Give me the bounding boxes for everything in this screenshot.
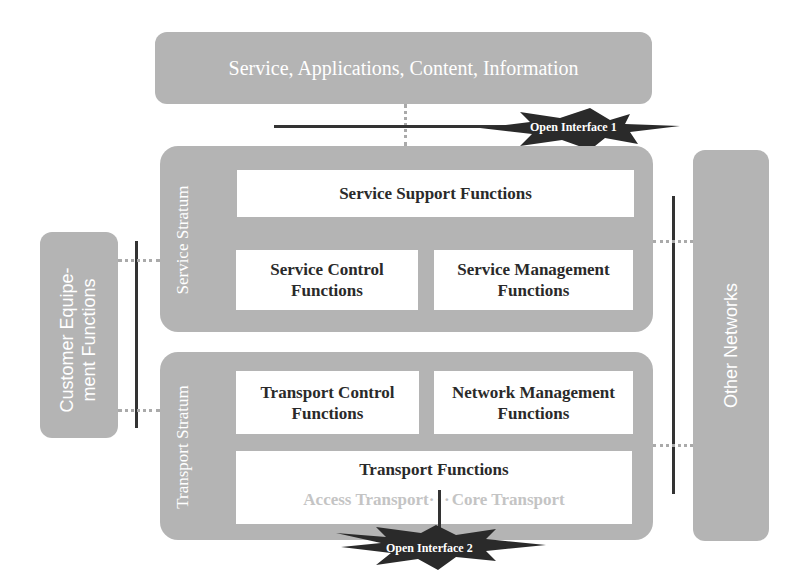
other-transport-connector [653,444,693,447]
transport-sub-row: Access Transport···Core Transport [236,489,632,510]
service-control-line1: Service Control [270,259,383,280]
customer-service-connector [118,259,160,262]
customer-equipment-label: Customer Equipe- ment Functions [56,240,100,440]
interface-1-line [274,125,514,128]
service-management-functions: Service Management Functions [434,250,633,310]
core-transport: Core Transport [452,490,565,509]
other-networks-label: Other Networks [721,266,742,426]
service-applications-box: Service, Applications, Content, Informat… [155,32,652,104]
service-support-functions: Service Support Functions [237,170,634,217]
open-interface-1-label: Open Interface 1 [530,120,617,135]
service-stratum-label: Service Stratum [173,180,193,300]
customer-line1: Customer Equipe- [56,240,78,440]
transport-control-line2: Functions [292,403,364,424]
other-service-connector [653,240,693,243]
transport-stratum-label: Transport Stratum [173,382,193,512]
service-control-functions: Service Control Functions [236,250,418,310]
customer-line [135,241,138,428]
transport-control-functions: Transport Control Functions [236,371,419,434]
transport-functions: Transport Functions Access Transport···C… [236,451,632,524]
customer-transport-connector [118,409,160,412]
network-mgmt-line1: Network Management [452,382,615,403]
open-interface-2-label: Open Interface 2 [386,541,473,556]
service-mgmt-line1: Service Management [457,259,609,280]
service-control-line2: Functions [291,280,363,301]
transport-functions-label: Transport Functions [236,459,632,480]
customer-line2: ment Functions [78,240,100,440]
service-applications-label: Service, Applications, Content, Informat… [229,57,579,80]
network-mgmt-line2: Functions [498,403,570,424]
service-mgmt-line2: Functions [498,280,570,301]
access-transport: Access Transport [303,490,428,509]
network-management-functions: Network Management Functions [434,371,633,434]
transport-control-line1: Transport Control [261,382,395,403]
